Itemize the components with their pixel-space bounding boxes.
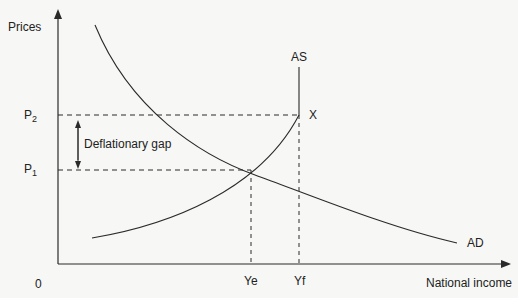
as-label: AS (291, 50, 307, 64)
ad-label: AD (467, 236, 484, 250)
p1-label: P1 (24, 162, 37, 180)
point-x-label: X (309, 108, 317, 122)
x-axis-label: National income (426, 276, 512, 290)
origin-label: 0 (35, 277, 42, 291)
diagram-canvas (0, 0, 518, 298)
ad-curve (95, 25, 457, 243)
yf-label: Yf (294, 274, 305, 288)
ye-label: Ye (244, 274, 258, 288)
y-axis-label: Prices (8, 20, 41, 34)
as-curve (92, 67, 299, 238)
deflationary-gap-diagram: Prices National income 0 P2 P1 Deflation… (0, 0, 518, 298)
p2-label: P2 (24, 108, 37, 126)
gap-label: Deflationary gap (84, 137, 171, 151)
